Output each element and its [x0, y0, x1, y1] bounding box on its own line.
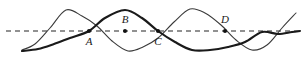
point-label-a: A [85, 35, 93, 47]
point-marker-c [156, 29, 160, 33]
point-marker-a [87, 29, 91, 33]
wave-plot-canvas: ABCD [0, 0, 308, 57]
wave-diagram: ABCD [0, 0, 308, 57]
point-label-d: D [220, 13, 229, 25]
point-marker-b [123, 29, 127, 33]
point-marker-d [223, 29, 227, 33]
point-label-c: C [154, 35, 162, 47]
point-label-b: B [122, 13, 129, 25]
